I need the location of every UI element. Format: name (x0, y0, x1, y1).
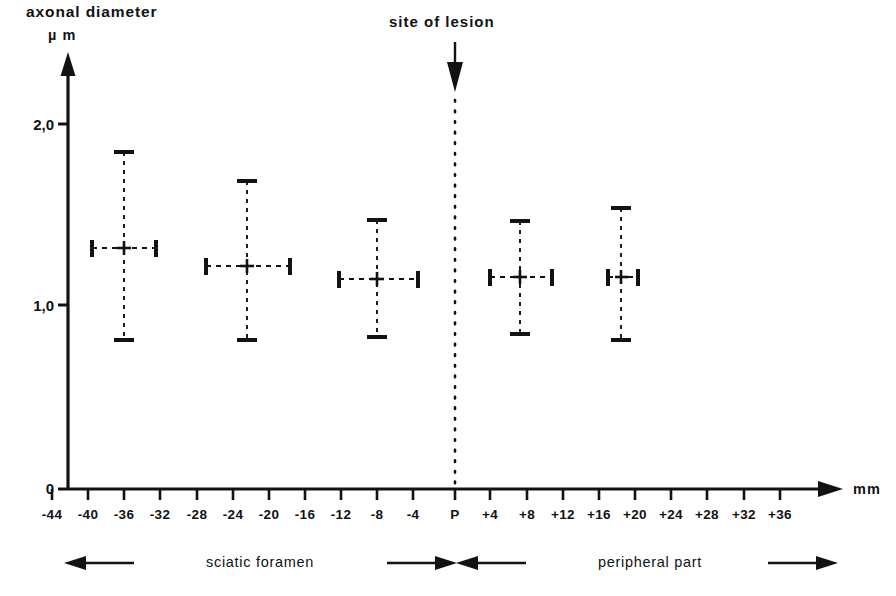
data-point-marker (92, 152, 156, 340)
region-span-sciatic-foramen (64, 556, 457, 570)
y-axis (58, 52, 76, 490)
region-span-peripheral-part (456, 556, 838, 570)
data-point-marker (206, 181, 290, 340)
data-point-marker (490, 221, 552, 334)
chart-figure: axonal diameter µ m site of lesion mm 2,… (0, 0, 896, 596)
site-of-lesion-marker (447, 42, 463, 487)
data-point-marker (339, 220, 418, 337)
x-axis (52, 481, 843, 500)
data-point-marker (608, 208, 638, 340)
chart-vector-layer (0, 0, 896, 596)
